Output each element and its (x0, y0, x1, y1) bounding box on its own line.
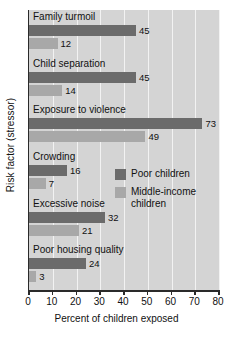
x-tick-label: 80 (212, 296, 223, 307)
category-label: Crowding (33, 150, 75, 164)
x-tick-label: 60 (165, 296, 176, 307)
bar-value-label: 24 (89, 258, 100, 269)
bar-mid (29, 178, 46, 189)
bar-value-label: 16 (70, 165, 81, 176)
x-axis-title: Percent of children exposed (0, 313, 233, 324)
x-tick (147, 290, 149, 295)
x-tick (194, 290, 196, 295)
x-tick (171, 290, 173, 295)
legend-swatch-icon-middle (115, 187, 126, 198)
x-tick (123, 290, 125, 295)
bar-value-label: 7 (49, 178, 54, 189)
bar-value-label: 49 (148, 131, 159, 142)
legend: Poor children Middle-income children (115, 168, 223, 215)
category-label: Excessive noise (33, 197, 105, 211)
x-tick (52, 290, 54, 295)
x-tick (218, 290, 220, 295)
bar-group: Family turmoil4512 (29, 10, 219, 57)
plot-area: Family turmoil4512Child separation4514Ex… (28, 10, 219, 290)
x-tick-label: 20 (70, 296, 81, 307)
bar-group: Exposure to violence7349 (29, 103, 219, 150)
bar-value-label: 14 (65, 85, 76, 96)
bar-poor (29, 258, 86, 269)
x-tick-label: 10 (46, 296, 57, 307)
bar-chart: Risk factor (stressor) Family turmoil451… (0, 0, 233, 337)
bar-value-label: 45 (139, 72, 150, 83)
bar-poor (29, 25, 136, 36)
legend-swatch-icon-poor (115, 169, 126, 180)
y-axis-title: Risk factor (stressor) (0, 0, 20, 290)
x-tick-label: 0 (25, 296, 31, 307)
gridline (219, 10, 220, 290)
bar-group: Child separation4514 (29, 57, 219, 104)
category-label: Family turmoil (33, 10, 95, 24)
bar-poor (29, 72, 136, 83)
bar-groups: Family turmoil4512Child separation4514Ex… (29, 10, 219, 290)
x-tick-label: 50 (141, 296, 152, 307)
x-tick (99, 290, 101, 295)
legend-label-middle: Middle-income children (131, 186, 223, 209)
bar-value-label: 3 (39, 271, 44, 282)
bar-mid (29, 131, 145, 142)
bar-poor (29, 165, 67, 176)
bar-group: Poor housing quality243 (29, 243, 219, 290)
bar-value-label: 45 (139, 25, 150, 36)
x-tick (28, 290, 30, 295)
x-tick-label: 40 (117, 296, 128, 307)
y-axis-title-text: Risk factor (stressor) (5, 98, 16, 192)
bar-mid (29, 225, 79, 236)
legend-item-poor-children: Poor children (115, 168, 223, 180)
category-label: Child separation (33, 57, 105, 71)
x-tick-label: 30 (94, 296, 105, 307)
x-axis-tick-labels: 01020304050607080 (28, 296, 218, 310)
x-tick (76, 290, 78, 295)
bar-mid (29, 271, 36, 282)
legend-item-middle-income-children: Middle-income children (115, 186, 223, 209)
bar-mid (29, 38, 58, 49)
bar-value-label: 21 (82, 225, 93, 236)
bar-poor (29, 118, 202, 129)
x-axis-ticks (28, 290, 218, 295)
x-tick-label: 70 (189, 296, 200, 307)
legend-label-poor: Poor children (131, 168, 190, 180)
bar-value-label: 73 (205, 118, 216, 129)
category-label: Poor housing quality (33, 243, 124, 257)
bar-value-label: 12 (61, 38, 72, 49)
bar-poor (29, 212, 105, 223)
bar-mid (29, 85, 62, 96)
category-label: Exposure to violence (33, 103, 126, 117)
